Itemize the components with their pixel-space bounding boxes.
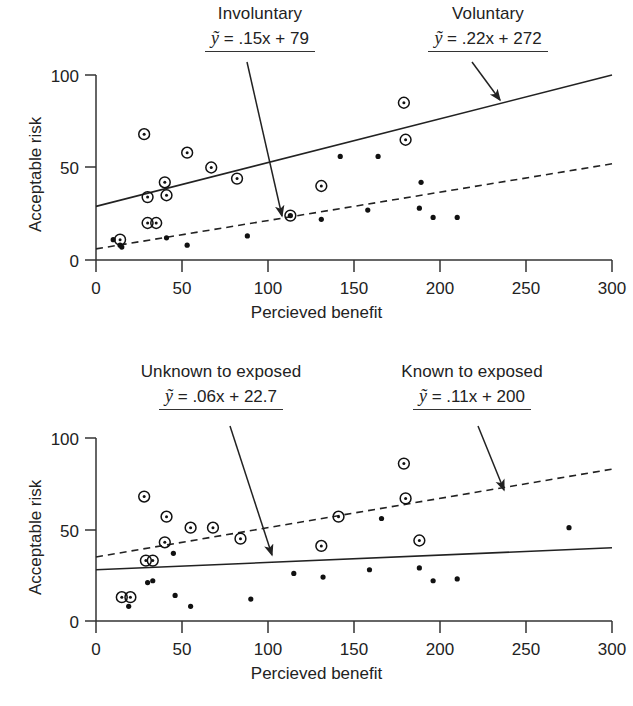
x-tick-label-50: 50 (173, 640, 192, 659)
leader-arrow-voluntary (472, 62, 500, 100)
data-point-dot (379, 516, 384, 521)
data-point-core (165, 194, 168, 197)
data-point-core (236, 177, 239, 180)
data-point-core (151, 559, 154, 562)
plot-area-top: 100 50 0 0 50 100 150 200 250 300 (0, 0, 633, 350)
fit-line-dashed (96, 164, 612, 249)
data-point-dot (338, 154, 343, 159)
y-axis-label-top: Acceptable risk (26, 117, 46, 232)
data-point-dot (566, 525, 571, 530)
x-tick-label-300: 300 (598, 640, 626, 659)
leader-arrow-involuntary (247, 62, 282, 216)
data-point-dot (417, 565, 422, 570)
data-point-dot (111, 237, 116, 242)
x-tick-label-100: 100 (254, 279, 282, 298)
data-point-core (186, 151, 189, 154)
data-point-core (418, 539, 421, 542)
data-point-core (146, 222, 149, 225)
leader-arrow-known-to-exposed (478, 426, 504, 490)
chart-panel-top: Involuntary ỹ = .15x + 79 Voluntary ỹ = … (0, 0, 633, 350)
data-point-core (211, 526, 214, 529)
y-tick-label-0: 0 (70, 252, 79, 271)
y-tick-label-0: 0 (70, 613, 79, 632)
data-point-dot (417, 206, 422, 211)
data-point-dot (291, 571, 296, 576)
chart-panel-bottom: Unknown to exposed ỹ = .06x + 22.7 Known… (0, 350, 633, 706)
y-tick-label-50: 50 (60, 159, 79, 178)
data-point-dot (145, 580, 150, 585)
data-point-core (404, 497, 407, 500)
data-point-core (163, 541, 166, 544)
data-point-core (320, 185, 323, 188)
data-point-dot (185, 243, 190, 248)
data-point-core (146, 196, 149, 199)
y-tick-label-100: 100 (51, 67, 79, 86)
data-point-core (129, 596, 132, 599)
plot-area-bottom: 100 50 0 0 50 100 150 200 250 300 (0, 350, 633, 706)
data-point-core (120, 596, 123, 599)
data-markers-top (111, 97, 460, 249)
data-point-dot (288, 213, 293, 218)
data-point-dot (320, 574, 325, 579)
data-point-core (163, 181, 166, 184)
data-point-core (337, 515, 340, 518)
y-axis-label-bottom: Acceptable risk (26, 480, 46, 595)
data-point-core (143, 495, 146, 498)
data-point-core (210, 166, 213, 169)
x-tick-label-200: 200 (426, 279, 454, 298)
data-point-core (402, 101, 405, 104)
data-point-dot (245, 233, 250, 238)
data-point-core (165, 515, 168, 518)
x-axis-label-top: Percieved benefit (0, 303, 633, 323)
x-axis-label-bottom: Percieved benefit (0, 664, 633, 684)
data-point-dot (365, 207, 370, 212)
data-point-dot (248, 596, 253, 601)
data-point-dot (431, 578, 436, 583)
data-point-dot (319, 217, 324, 222)
data-point-core (143, 133, 146, 136)
data-point-core (239, 537, 242, 540)
data-point-dot (367, 567, 372, 572)
data-markers-bottom (116, 458, 571, 609)
x-tick-label-300: 300 (598, 279, 626, 298)
y-tick-label-50: 50 (60, 522, 79, 541)
fit-line-solid (96, 75, 612, 206)
x-tick-label-150: 150 (340, 279, 368, 298)
data-point-dot (164, 235, 169, 240)
fit-lines-top (96, 75, 612, 249)
x-tick-label-0: 0 (91, 640, 100, 659)
data-point-dot (455, 576, 460, 581)
data-point-dot (455, 215, 460, 220)
data-point-dot (171, 551, 176, 556)
x-tick-label-250: 250 (512, 279, 540, 298)
x-tick-label-50: 50 (173, 279, 192, 298)
x-tick-label-0: 0 (91, 279, 100, 298)
data-point-dot (375, 154, 380, 159)
y-tick-label-100: 100 (51, 430, 79, 449)
data-point-core (320, 544, 323, 547)
data-point-dot (431, 215, 436, 220)
data-point-dot (188, 604, 193, 609)
data-point-core (189, 526, 192, 529)
x-tick-label-250: 250 (512, 640, 540, 659)
data-point-core (402, 462, 405, 465)
x-tick-label-150: 150 (340, 640, 368, 659)
data-point-core (119, 238, 122, 241)
data-point-dot (126, 604, 131, 609)
data-point-core (404, 138, 407, 141)
x-tick-label-100: 100 (254, 640, 282, 659)
data-point-dot (173, 593, 178, 598)
data-point-dot (418, 180, 423, 185)
data-point-dot (119, 244, 124, 249)
data-point-core (155, 222, 158, 225)
fit-line-dashed (96, 469, 612, 557)
data-point-dot (150, 578, 155, 583)
x-tick-label-200: 200 (426, 640, 454, 659)
